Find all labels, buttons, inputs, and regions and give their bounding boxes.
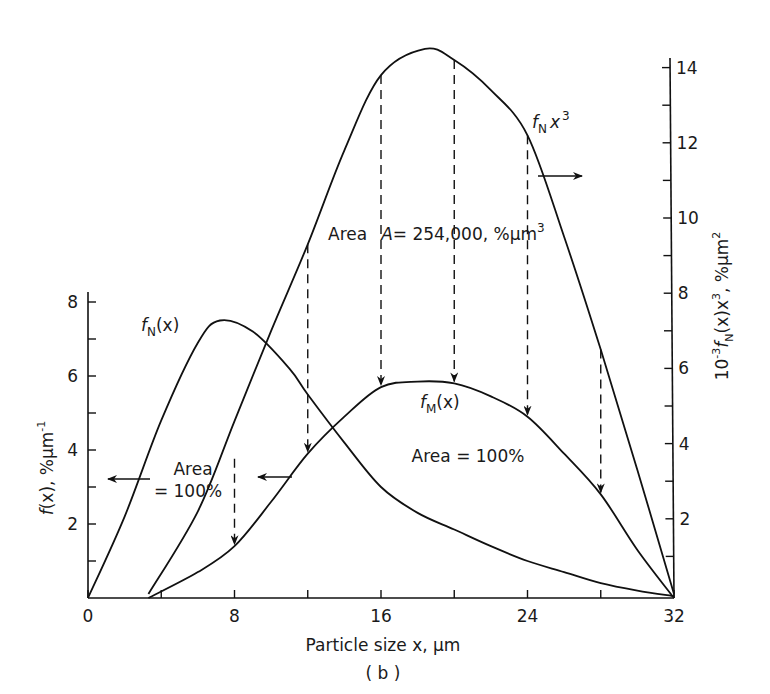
y-right-tick-labels: 2468101214: [676, 58, 699, 529]
y-right-tick-label: 14: [676, 58, 698, 78]
x-tick-label: 16: [370, 606, 392, 626]
y-axis-right-title: 10-3fN(x)x3, %µm2: [710, 232, 736, 381]
y-right-tick-label: 6: [678, 358, 689, 378]
label-fM: fM(x): [420, 392, 460, 416]
area-fN-label: Area: [173, 459, 212, 479]
y-axis-right: [670, 58, 674, 598]
label-fN-x3: fNx3: [532, 109, 570, 136]
y-axis-left-ticks: [88, 302, 96, 561]
y-left-tick-label: 8: [67, 292, 78, 312]
y-left-tick-label: 4: [67, 440, 78, 460]
y-right-tick-label: 4: [679, 434, 690, 454]
figure-subtitle: ( b ): [366, 663, 401, 683]
y-left-tick-label: 2: [67, 514, 78, 534]
y-right-tick-label: 10: [677, 208, 699, 228]
area-fM-label: Area = 100%: [412, 446, 525, 466]
x-axis-title: Particle size x, µm: [306, 635, 461, 655]
particle-size-chart: 08162432 2468 2468101214 Particle size x…: [0, 0, 770, 694]
y-right-tick-label: 8: [678, 283, 689, 303]
x-tick-labels: 08162432: [83, 606, 685, 626]
y-right-tick-label: 12: [677, 133, 699, 153]
y-left-tick-label: 6: [67, 366, 78, 386]
y-right-tick-label: 2: [679, 509, 690, 529]
y-left-tick-labels: 2468: [67, 292, 78, 534]
curve-fM: [148, 381, 674, 598]
x-tick-label: 8: [229, 606, 240, 626]
x-tick-label: 0: [83, 606, 94, 626]
x-axis-ticks: [88, 590, 674, 598]
x-tick-label: 24: [517, 606, 539, 626]
y-axis-left-title: f(x), %µm-1: [35, 421, 57, 516]
x-tick-label: 32: [663, 606, 685, 626]
area-fN-value: = 100%: [154, 481, 222, 501]
area-fNx3-label: AreaA= 254,000, %µm3: [328, 221, 545, 244]
label-fN: fN(x): [141, 315, 179, 339]
